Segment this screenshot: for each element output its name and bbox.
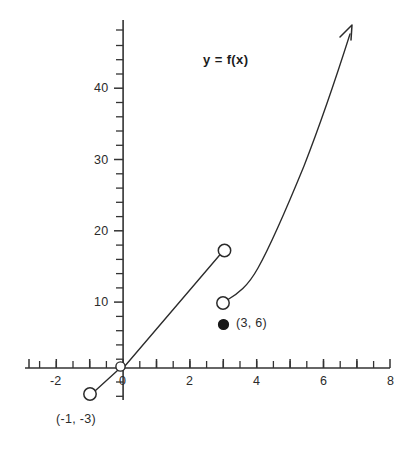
point-label-3-6: (3, 6) (236, 316, 267, 330)
graph-figure: -2 0 2 4 6 8 10 20 30 40 y = f(x) (3, 6)… (0, 0, 417, 459)
y-tick-label-20: 20 (94, 224, 108, 238)
x-tick-label-4: 4 (253, 374, 260, 388)
curve-branch-linear (125, 254, 222, 367)
open-circle-marker-3-16 (218, 244, 230, 256)
open-circle-marker-neg1-neg3 (84, 388, 96, 400)
open-circle-marker-3-9 (217, 297, 229, 309)
x-axis-major-ticks (29, 359, 390, 368)
y-tick-label-40: 40 (94, 81, 108, 95)
y-tick-label-10: 10 (94, 295, 108, 309)
coordinate-plane (0, 0, 417, 459)
x-tick-label-0: 0 (119, 374, 126, 388)
open-circle-marker-origin (116, 362, 125, 371)
curve-arrowhead (340, 25, 352, 40)
x-tick-label-2: 2 (186, 374, 193, 388)
y-axis (114, 20, 123, 400)
y-axis-major-ticks (114, 88, 123, 302)
x-tick-label-neg2: -2 (50, 374, 62, 388)
x-axis (25, 359, 390, 368)
function-label: y = f(x) (203, 52, 248, 67)
x-tick-label-6: 6 (320, 374, 327, 388)
filled-circle-marker-3-6 (219, 320, 229, 330)
x-tick-label-8: 8 (387, 374, 394, 388)
y-tick-label-30: 30 (94, 153, 108, 167)
y-axis-minor-ticks (116, 30, 123, 396)
point-label-neg1-neg3: (-1, -3) (56, 412, 96, 426)
curve-branch-lower-tail (96, 371, 118, 391)
